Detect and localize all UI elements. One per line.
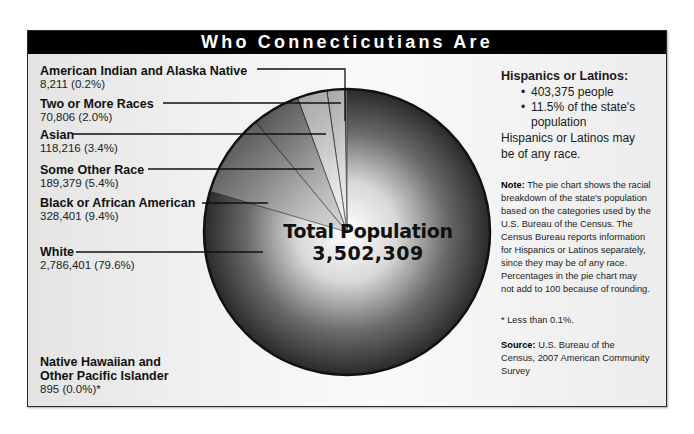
footnote: * Less than 0.1%. (501, 314, 651, 327)
note-block: Note: The pie chart shows the racial bre… (501, 179, 651, 296)
label-name: Two or More Races (40, 97, 154, 111)
total-label: Total Population (238, 220, 498, 242)
label-name: White (40, 245, 135, 259)
label-value: 189,379 (5.4%) (40, 177, 144, 190)
label-some-other: Some Other Race 189,379 (5.4%) (40, 163, 144, 190)
hispanic-bullet-continuation-text: population (531, 115, 586, 129)
total-value: 3,502,309 (238, 242, 498, 264)
label-value: 2,786,401 (79.6%) (40, 259, 135, 272)
label-two-or-more: Two or More Races 70,806 (2.0%) (40, 97, 154, 124)
label-value: 70,806 (2.0%) (40, 111, 154, 124)
label-black: Black or African American 328,401 (9.4%) (40, 196, 195, 223)
hispanic-bullet: 11.5% of the state's (521, 100, 651, 115)
label-asian: Asian 118,216 (3.4%) (40, 128, 118, 155)
label-name: American Indian and Alaska Native (40, 64, 247, 78)
hispanic-bullet-continuation: population (521, 115, 651, 130)
label-value: 8,211 (0.2%) (40, 78, 247, 91)
label-white: White 2,786,401 (79.6%) (40, 245, 135, 272)
label-american-indian: American Indian and Alaska Native 8,211 … (40, 64, 247, 91)
source-block: Source: U.S. Bureau of the Census, 2007 … (501, 339, 651, 378)
hispanic-bullet: 403,375 people (521, 85, 651, 100)
label-value: 895 (0.0%)* (40, 383, 169, 396)
hispanic-note: Hispanics or Latinos may be of any race. (501, 130, 651, 162)
label-native-hawaiian: Native Hawaiian and Other Pacific Island… (40, 355, 169, 396)
label-value: 118,216 (3.4%) (40, 142, 118, 155)
infographic-frame: Who Connecticutians Are (27, 30, 667, 407)
label-value: 328,401 (9.4%) (40, 210, 195, 223)
source-label: Source: (501, 340, 536, 350)
hispanic-panel: Hispanics or Latinos: 403,375 people 11.… (501, 69, 651, 162)
label-name-line1: Native Hawaiian and (40, 355, 169, 369)
note-text: The pie chart shows the racial breakdown… (501, 180, 651, 294)
total-population: Total Population 3,502,309 (238, 220, 498, 264)
label-name: Asian (40, 128, 118, 142)
note-label: Note: (501, 180, 525, 190)
label-name-line2: Other Pacific Islander (40, 369, 169, 383)
hispanic-title: Hispanics or Latinos: (501, 69, 651, 84)
label-name: Some Other Race (40, 163, 144, 177)
label-name: Black or African American (40, 196, 195, 210)
hispanic-bullets: 403,375 people 11.5% of the state's popu… (501, 85, 651, 130)
